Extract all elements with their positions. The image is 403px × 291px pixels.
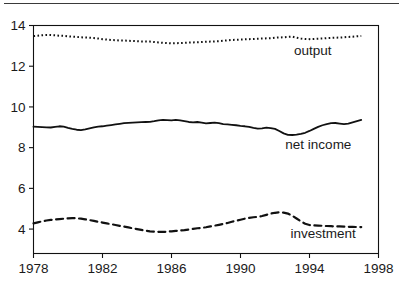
y-tick-label: 12 xyxy=(10,59,25,74)
x-tick-label: 1994 xyxy=(294,261,325,276)
x-tick-label: 1986 xyxy=(156,261,186,276)
chart-figure: 468101214 197819821986199019941998 outpu… xyxy=(0,0,403,291)
y-axis-ticks: 468101214 xyxy=(10,18,33,237)
line-chart-plot: 468101214 197819821986199019941998 outpu… xyxy=(0,0,403,291)
series-label-investment: investment xyxy=(291,226,357,241)
y-tick-label: 8 xyxy=(18,140,26,155)
y-tick-label: 6 xyxy=(18,181,26,196)
x-tick-label: 1998 xyxy=(363,261,393,276)
x-axis-ticks: 197819821986199019941998 xyxy=(18,254,393,276)
series-label-output: output xyxy=(294,43,332,58)
x-tick-label: 1982 xyxy=(87,261,117,276)
series-labels-group: outputnet incomeinvestment xyxy=(285,43,356,241)
y-tick-label: 4 xyxy=(18,222,26,237)
data-series-group xyxy=(34,35,362,232)
x-tick-label: 1978 xyxy=(18,261,48,276)
y-tick-label: 10 xyxy=(10,100,25,115)
x-tick-label: 1990 xyxy=(225,261,255,276)
series-line-net-income xyxy=(34,120,362,135)
y-tick-label: 14 xyxy=(10,18,26,33)
series-label-net-income: net income xyxy=(285,137,351,152)
